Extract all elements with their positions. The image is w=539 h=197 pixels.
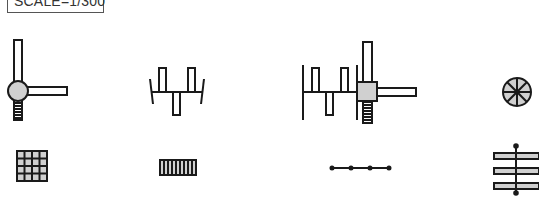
diagram-canvas — [0, 0, 539, 197]
grid-icon — [17, 151, 47, 181]
joint-symbol — [8, 40, 67, 120]
spring-icon — [363, 102, 372, 123]
spoked-circle-icon — [503, 78, 531, 106]
assembly-symbol — [303, 42, 416, 123]
node-line-icon — [331, 167, 391, 170]
beam-symbol — [150, 68, 204, 115]
spring-icon — [14, 100, 22, 120]
stacked-bars-icon — [494, 144, 539, 195]
ladder-icon — [160, 160, 196, 175]
